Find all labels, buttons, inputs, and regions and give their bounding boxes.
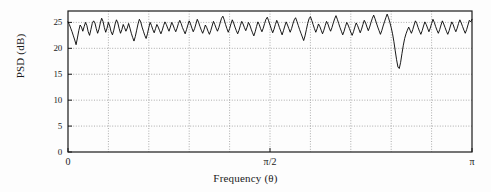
x-tick-label: π (469, 156, 474, 167)
x-axis-title: Frequency (θ) (0, 172, 491, 184)
x-tick-label: π/2 (264, 156, 277, 167)
y-tick-label: 15 (54, 69, 62, 79)
y-tick-label: 25 (54, 17, 62, 27)
x-tick-label: 0 (66, 156, 71, 167)
y-tick-label: 5 (58, 121, 62, 131)
y-axis-title: PSD (dB) (14, 6, 26, 106)
figure-psd-plot: PSD (dB) 0510152025 0π/2π Frequency (θ) (0, 0, 491, 192)
x-axis-tick-labels: 0π/2π (0, 156, 491, 172)
y-tick-label: 20 (54, 43, 62, 53)
y-tick-label: 10 (54, 95, 62, 105)
